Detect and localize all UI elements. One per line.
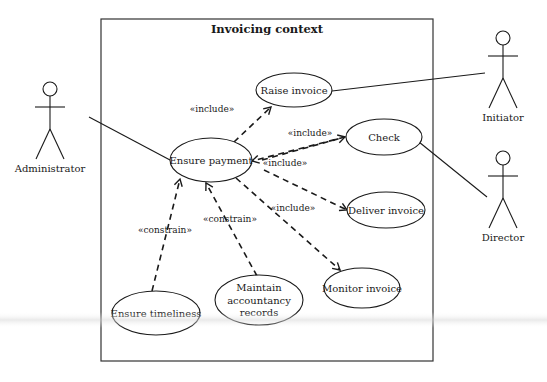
stereotype-label: «include» xyxy=(190,104,235,114)
actor-director[interactable]: Director xyxy=(482,151,525,243)
stick-figure-icon xyxy=(35,82,65,159)
use-case-ensure-payment[interactable]: Ensure payment xyxy=(169,138,252,182)
stick-figure-icon xyxy=(488,31,518,108)
use-case-label: Deliver invoice xyxy=(348,205,424,216)
use-case-deliver-invoice[interactable]: Deliver invoice xyxy=(347,192,425,228)
use-case-label: Maintain xyxy=(236,282,282,293)
actor-label: Initiator xyxy=(482,112,524,123)
use-case-label: Check xyxy=(368,132,401,143)
use-case-raise-invoice[interactable]: Raise invoice xyxy=(256,73,332,107)
use-case-label: accountancy xyxy=(227,295,291,306)
stereotype-label: «include» xyxy=(288,128,333,138)
stereotype-label: «constrain» xyxy=(138,225,192,235)
stereotype-label: «constrain» xyxy=(203,214,257,224)
use-case-check[interactable]: Check xyxy=(346,119,422,155)
use-case-diagram: Invoicing context «include»«include»«inc… xyxy=(0,0,547,382)
scan-band xyxy=(0,312,547,328)
use-case-monitor-invoice[interactable]: Monitor invoice xyxy=(322,268,402,308)
actor-label: Director xyxy=(482,232,525,243)
actor-initiator[interactable]: Initiator xyxy=(482,31,524,123)
use-case-label: Monitor invoice xyxy=(322,283,402,294)
stereotype-label: «include» xyxy=(271,203,316,213)
stereotype-label: «include» xyxy=(263,158,308,168)
use-case-label: Ensure payment xyxy=(169,155,252,166)
actor-administrator[interactable]: Administrator xyxy=(14,82,86,174)
frame-title: Invoicing context xyxy=(211,22,324,36)
use-case-label: Raise invoice xyxy=(260,85,327,96)
actor-label: Administrator xyxy=(14,163,86,174)
stick-figure-icon xyxy=(488,151,518,228)
